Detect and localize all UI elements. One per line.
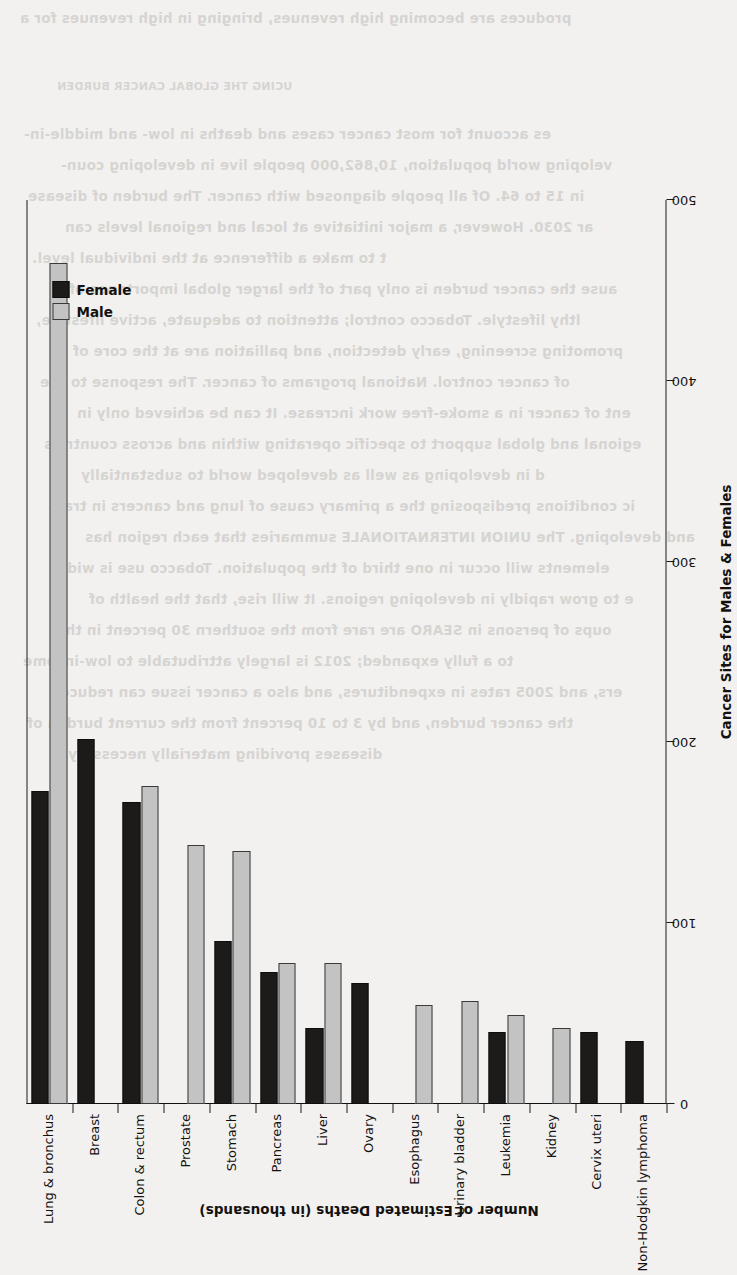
category-tick — [72, 1104, 73, 1113]
bar-female — [580, 1032, 597, 1104]
bar-female — [625, 1041, 642, 1104]
category-axis-title: Cancer Sites for Males & Females — [717, 0, 733, 1224]
value-tick-label: 300 — [661, 554, 707, 569]
category-label: Lung & bronchus — [40, 1114, 55, 1275]
bar-male — [278, 963, 295, 1104]
category-tick — [620, 1104, 621, 1113]
category-label: Liver — [314, 1114, 329, 1275]
legend-item-male: Male — [52, 303, 131, 320]
bar-male — [232, 851, 249, 1104]
value-tick-label: 400 — [661, 373, 707, 388]
category-tick — [209, 1104, 210, 1113]
bar-male — [141, 786, 158, 1104]
value-tick — [666, 380, 674, 381]
category-tick — [300, 1104, 301, 1113]
bar-female — [31, 791, 48, 1104]
bar-male — [415, 1005, 432, 1104]
bar-female — [260, 972, 277, 1104]
category-tick — [392, 1104, 393, 1113]
category-tick — [529, 1104, 530, 1113]
category-label: Breast — [86, 1114, 101, 1275]
category-label: Cervix uteri — [588, 1114, 603, 1275]
bar-male — [507, 1015, 524, 1104]
category-tick — [117, 1104, 118, 1113]
value-tick — [666, 741, 674, 742]
value-tick — [666, 922, 674, 923]
bar-male — [187, 845, 204, 1104]
bar-female — [77, 739, 94, 1104]
value-tick-label: 500 — [661, 193, 707, 208]
value-tick-label: 100 — [661, 916, 707, 931]
legend-swatch-male — [52, 303, 69, 320]
category-tick — [163, 1104, 164, 1113]
bar-male — [324, 963, 341, 1104]
plot-area: 0100200300400500 Lung & bronchusBreastCo… — [26, 200, 666, 1104]
bar-female — [488, 1032, 505, 1104]
category-label: Kidney — [543, 1114, 558, 1275]
category-label: Esophagus — [406, 1114, 421, 1275]
category-label: Urinary bladder — [451, 1114, 466, 1275]
chart-legend: FemaleMale — [52, 281, 131, 320]
category-label: Prostate — [177, 1114, 192, 1275]
bar-female — [351, 983, 368, 1104]
category-tick — [666, 1104, 667, 1113]
category-tick — [483, 1104, 484, 1113]
bar-male — [49, 263, 66, 1104]
bar-male — [552, 1028, 569, 1104]
legend-swatch-female — [52, 281, 69, 298]
category-label: Pancreas — [268, 1114, 283, 1275]
category-label: Ovary — [360, 1114, 375, 1275]
bar-male — [461, 1001, 478, 1104]
bars-container: Lung & bronchusBreastColon & rectumProst… — [26, 200, 666, 1104]
category-tick — [437, 1104, 438, 1113]
value-tick-label: 200 — [661, 735, 707, 750]
value-tick — [666, 561, 674, 562]
legend-label: Male — [76, 304, 112, 320]
value-tick — [666, 199, 674, 200]
category-tick — [255, 1104, 256, 1113]
bar-female — [305, 1028, 322, 1104]
category-label: Colon & rectum — [131, 1114, 146, 1275]
category-label: Stomach — [223, 1114, 238, 1275]
bar-female — [214, 941, 231, 1104]
bar-female — [122, 802, 139, 1104]
legend-item-female: Female — [52, 281, 131, 298]
category-tick — [575, 1104, 576, 1113]
legend-label: Female — [76, 282, 131, 298]
category-label: Non-Hodgkin lymphoma — [634, 1114, 649, 1275]
category-label: Leukemia — [497, 1114, 512, 1275]
category-tick — [346, 1104, 347, 1113]
